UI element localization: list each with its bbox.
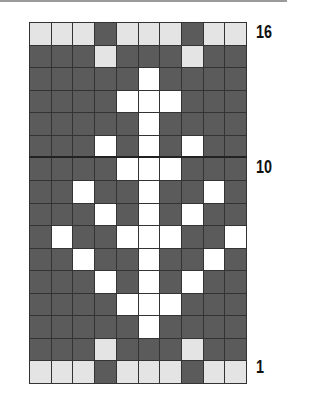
grid-cell xyxy=(52,113,73,135)
grid-cell xyxy=(160,294,181,316)
grid-cell xyxy=(225,339,246,361)
grid-cell xyxy=(139,339,160,361)
grid-cell xyxy=(52,339,73,361)
grid-cell xyxy=(160,226,181,248)
grid-cell xyxy=(52,249,73,271)
grid-cell xyxy=(139,91,160,113)
grid-cell xyxy=(73,113,94,135)
grid-cell xyxy=(225,361,246,383)
grid-cell xyxy=(52,294,73,316)
grid-cell xyxy=(117,249,138,271)
grid-cell xyxy=(204,361,225,383)
grid-cell xyxy=(30,181,51,203)
grid-cell xyxy=(30,294,51,316)
grid-cell xyxy=(160,361,181,383)
grid-cell xyxy=(73,226,94,248)
grid-cell xyxy=(182,316,203,338)
knitting-chart-grid xyxy=(29,22,247,384)
grid-cell xyxy=(73,271,94,293)
grid-cell xyxy=(30,226,51,248)
grid-cell xyxy=(117,46,138,68)
grid-cell xyxy=(117,23,138,45)
grid-cell xyxy=(30,23,51,45)
grid-cell xyxy=(139,226,160,248)
grid-cell xyxy=(30,361,51,383)
grid-cell xyxy=(225,181,246,203)
grid-cell xyxy=(73,249,94,271)
grid-cell xyxy=(139,316,160,338)
grid-cell xyxy=(73,316,94,338)
grid-cell xyxy=(52,23,73,45)
grid-cell xyxy=(139,271,160,293)
grid-cell xyxy=(30,68,51,90)
grid-cell xyxy=(95,204,116,226)
grid-cell xyxy=(182,91,203,113)
grid-cell xyxy=(160,271,181,293)
grid-cell xyxy=(95,271,116,293)
grid-cell xyxy=(139,68,160,90)
grid-cell xyxy=(117,91,138,113)
grid-cell xyxy=(160,23,181,45)
grid-cell xyxy=(225,46,246,68)
grid-cell xyxy=(95,316,116,338)
grid-cell xyxy=(117,204,138,226)
grid-cell xyxy=(225,23,246,45)
grid-cell xyxy=(117,361,138,383)
grid-cell xyxy=(139,46,160,68)
grid-cell xyxy=(204,113,225,135)
grid-cell xyxy=(30,158,51,180)
grid-cell xyxy=(117,136,138,158)
grid-cell xyxy=(73,204,94,226)
grid-cell xyxy=(95,136,116,158)
grid-cell xyxy=(117,113,138,135)
grid-cell xyxy=(52,316,73,338)
grid-cell xyxy=(95,361,116,383)
grid-cell xyxy=(52,91,73,113)
grid-cell xyxy=(225,316,246,338)
row-label-16: 16 xyxy=(256,22,272,43)
grid-cell xyxy=(73,294,94,316)
grid-cell xyxy=(30,271,51,293)
grid-cell xyxy=(117,68,138,90)
grid-cell xyxy=(95,181,116,203)
grid-cell xyxy=(73,339,94,361)
grid-cell xyxy=(52,271,73,293)
grid-cell xyxy=(117,158,138,180)
grid-cell xyxy=(52,226,73,248)
grid-cell xyxy=(182,46,203,68)
grid-cell xyxy=(139,136,160,158)
grid-cell xyxy=(117,294,138,316)
grid-cell xyxy=(95,68,116,90)
grid-cell xyxy=(30,249,51,271)
grid-cell xyxy=(30,136,51,158)
grid-cell xyxy=(139,113,160,135)
grid-cell xyxy=(52,158,73,180)
grid-cell xyxy=(225,113,246,135)
grid-cell xyxy=(139,249,160,271)
grid-cell xyxy=(182,181,203,203)
grid-cell xyxy=(95,46,116,68)
grid-cell xyxy=(204,249,225,271)
grid-cell xyxy=(30,91,51,113)
grid-cell xyxy=(160,46,181,68)
grid-cell xyxy=(52,136,73,158)
grid-cell xyxy=(139,23,160,45)
grid-cell xyxy=(95,294,116,316)
grid-cell xyxy=(95,113,116,135)
grid-cell xyxy=(117,226,138,248)
grid-cell xyxy=(160,113,181,135)
grid-cell xyxy=(182,113,203,135)
grid-cell xyxy=(160,68,181,90)
grid-cell xyxy=(225,158,246,180)
grid-cell xyxy=(225,271,246,293)
grid-cell xyxy=(225,68,246,90)
grid-cell xyxy=(73,91,94,113)
grid-cell xyxy=(73,136,94,158)
grid-cell xyxy=(52,68,73,90)
grid-cell xyxy=(204,294,225,316)
grid-cell xyxy=(160,158,181,180)
grid-cell xyxy=(160,316,181,338)
grid-cell xyxy=(95,339,116,361)
grid-cell xyxy=(95,158,116,180)
grid-cell xyxy=(73,361,94,383)
